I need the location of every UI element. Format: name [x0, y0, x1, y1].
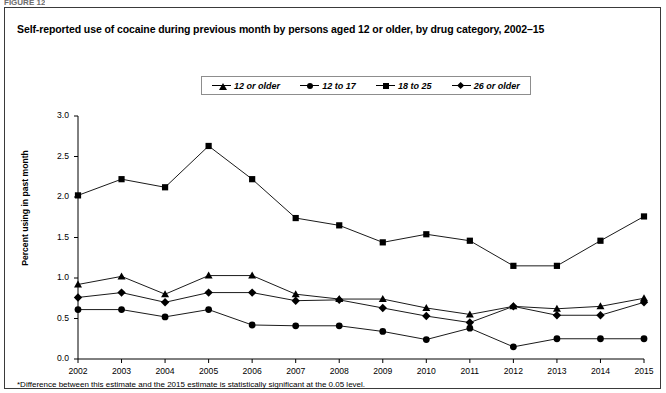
data-point-circle	[118, 306, 125, 313]
data-point-diamond	[553, 311, 561, 319]
data-point-diamond	[74, 293, 82, 301]
data-point-square	[641, 213, 647, 219]
data-point-circle	[75, 306, 82, 313]
data-point-triangle	[292, 290, 300, 297]
data-point-circle	[162, 313, 169, 320]
figure-frame: Self-reported use of cocaine during prev…	[4, 7, 661, 389]
data-point-circle	[336, 322, 343, 329]
data-point-diamond	[596, 311, 604, 319]
data-point-diamond	[640, 298, 648, 306]
data-point-diamond	[466, 318, 474, 326]
data-point-diamond	[422, 312, 430, 320]
data-point-diamond	[335, 296, 343, 304]
data-point-square	[75, 192, 81, 198]
data-point-diamond	[204, 288, 212, 296]
data-point-square	[162, 184, 168, 190]
data-point-circle	[249, 322, 256, 329]
data-point-triangle	[161, 290, 169, 297]
data-point-square	[336, 222, 342, 228]
data-point-triangle	[118, 272, 126, 279]
data-point-circle	[510, 343, 517, 350]
data-point-circle	[554, 335, 561, 342]
figure-number-label: FIGURE 12	[4, 0, 45, 5]
data-point-circle	[641, 335, 648, 342]
chart-footnote: *Difference between this estimate and th…	[17, 380, 365, 389]
data-point-diamond	[117, 288, 125, 296]
data-point-diamond	[248, 288, 256, 296]
data-point-square	[118, 176, 124, 182]
line-chart-svg	[5, 8, 666, 393]
data-point-diamond	[161, 298, 169, 306]
data-point-diamond	[291, 296, 299, 304]
data-point-circle	[597, 335, 604, 342]
data-point-square	[249, 176, 255, 182]
data-point-circle	[423, 336, 430, 343]
data-point-diamond	[379, 304, 387, 312]
chart-plot-area: Percent using in past month 0.00.51.01.5…	[5, 8, 666, 393]
data-point-circle	[292, 322, 299, 329]
data-point-triangle	[205, 272, 213, 279]
data-point-square	[554, 263, 560, 269]
data-point-triangle	[379, 295, 387, 302]
data-point-square	[467, 238, 473, 244]
data-point-circle	[205, 306, 212, 313]
data-point-circle	[379, 328, 386, 335]
data-point-triangle	[248, 272, 256, 279]
data-point-square	[380, 239, 386, 245]
data-point-square	[293, 215, 299, 221]
data-point-square	[206, 143, 212, 149]
data-point-square	[423, 231, 429, 237]
data-point-square	[597, 238, 603, 244]
series-line-18-to-25	[78, 146, 644, 266]
data-point-square	[510, 263, 516, 269]
